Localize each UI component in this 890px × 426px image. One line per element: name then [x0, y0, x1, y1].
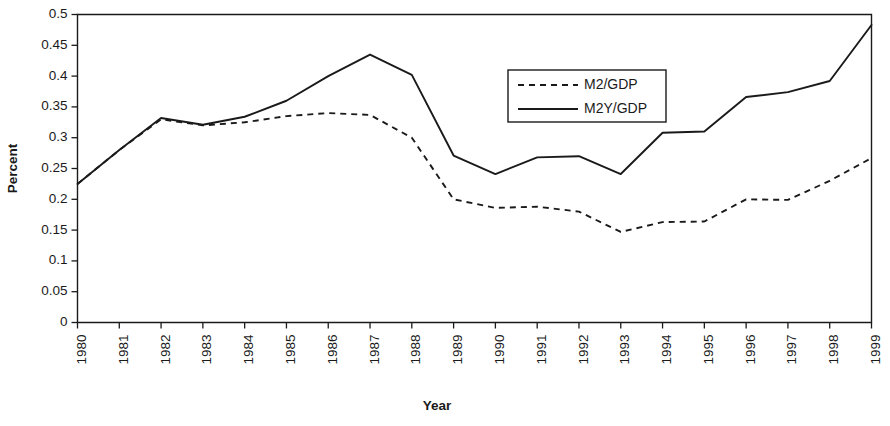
y-tick-label: 0.05 [41, 283, 67, 298]
y-tick-label: 0.35 [41, 98, 67, 113]
x-axis-ticks: 1980198119821983198419851986198719881989… [74, 323, 883, 365]
y-axis-ticks: 00.050.10.150.20.250.30.350.40.450.5 [41, 6, 77, 329]
y-tick-label: 0 [60, 314, 68, 329]
x-tick-label: 1985 [283, 335, 298, 365]
y-axis-title: Percent [5, 143, 20, 193]
y-tick-label: 0.2 [49, 191, 68, 206]
x-axis-title: Year [423, 398, 452, 413]
x-tick-label: 1990 [492, 335, 507, 365]
chart-figure: 00.050.10.150.20.250.30.350.40.450.5 198… [0, 0, 890, 426]
x-tick-label: 1998 [826, 335, 841, 365]
x-tick-label: 1997 [784, 335, 799, 365]
series-layer [78, 25, 872, 232]
y-tick-label: 0.45 [41, 37, 67, 52]
series-line-m2y-gdp [78, 25, 872, 184]
legend-label: M2Y/GDP [584, 100, 647, 116]
x-tick-label: 1994 [659, 334, 674, 365]
y-tick-label: 0.4 [49, 68, 68, 83]
y-tick-label: 0.5 [49, 6, 68, 21]
x-tick-label: 1995 [701, 335, 716, 365]
x-tick-label: 1996 [743, 335, 758, 365]
x-tick-label: 1982 [158, 335, 173, 365]
x-tick-label: 1987 [367, 335, 382, 365]
x-tick-label: 1993 [617, 335, 632, 365]
y-tick-label: 0.1 [49, 252, 68, 267]
x-tick-label: 1992 [576, 335, 591, 365]
line-chart: 00.050.10.150.20.250.30.350.40.450.5 198… [0, 0, 890, 426]
x-tick-label: 1988 [408, 335, 423, 365]
y-tick-label: 0.25 [41, 160, 67, 175]
x-tick-label: 1999 [868, 335, 883, 365]
chart-legend: M2/GDPM2Y/GDP [508, 70, 666, 122]
x-tick-label: 1986 [325, 335, 340, 365]
plot-axis-frame [78, 15, 872, 323]
x-tick-label: 1981 [116, 335, 131, 365]
legend-label: M2/GDP [584, 76, 638, 92]
y-tick-label: 0.15 [41, 222, 67, 237]
series-line-m2-gdp [78, 113, 872, 232]
x-tick-label: 1989 [450, 335, 465, 365]
x-tick-label: 1983 [199, 335, 214, 365]
y-tick-label: 0.3 [49, 129, 68, 144]
x-tick-label: 1980 [74, 335, 89, 365]
x-tick-label: 1991 [534, 335, 549, 365]
x-tick-label: 1984 [241, 334, 256, 365]
